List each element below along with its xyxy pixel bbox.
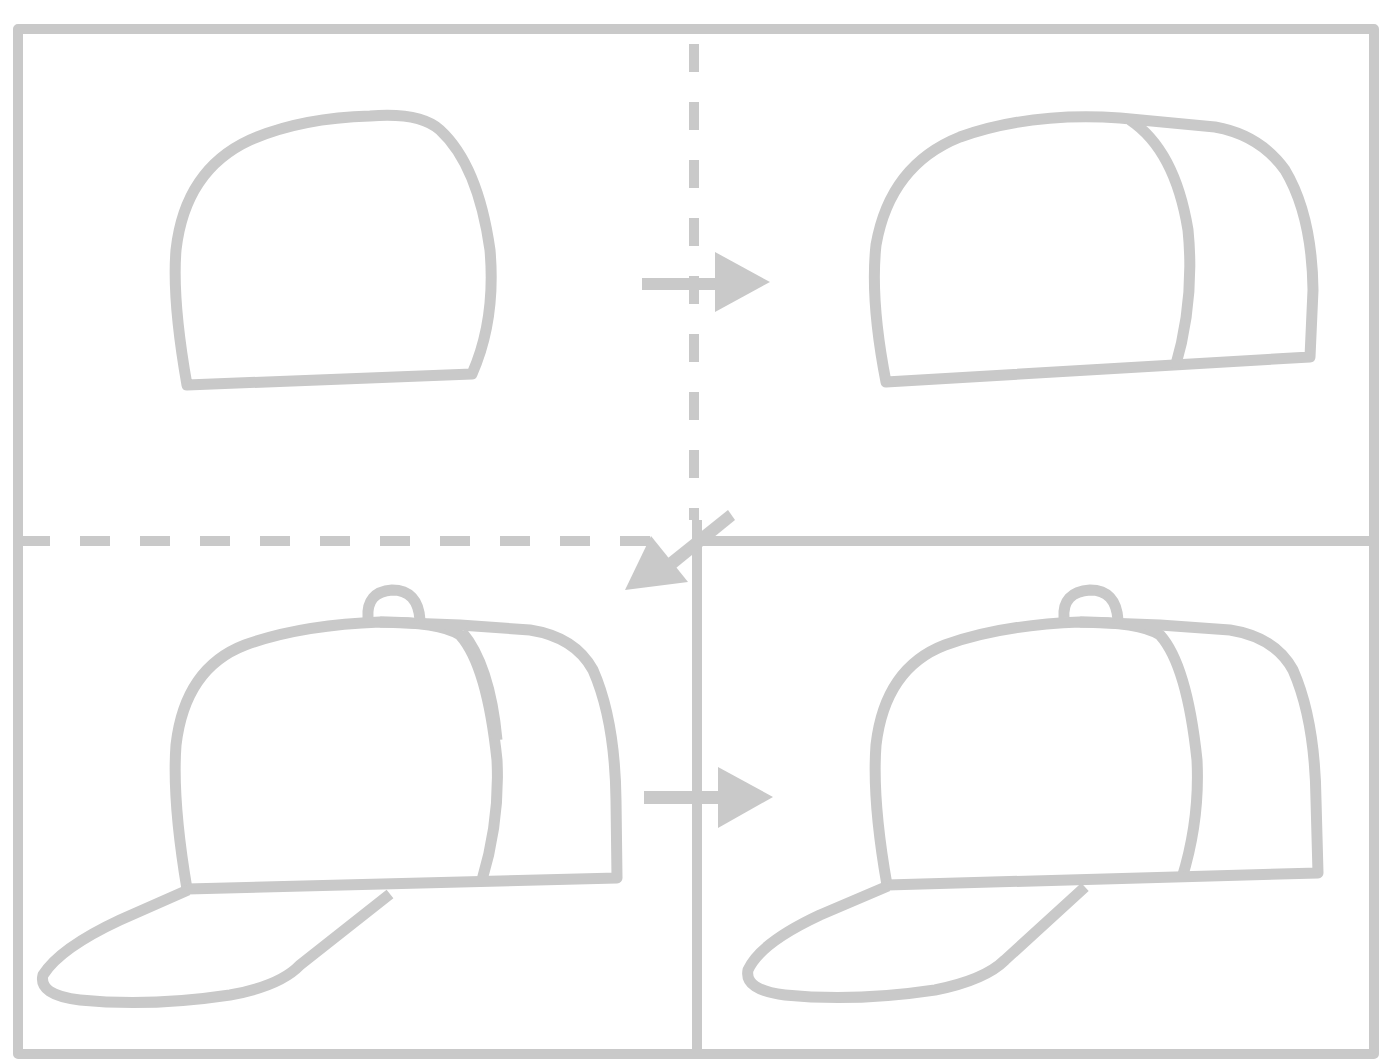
cap-drawing-diagram: [0, 0, 1385, 1061]
arrow-step-1-to-2: [642, 252, 770, 312]
cap-brim: [748, 886, 1085, 998]
step-2-cap-crown-with-panel: [874, 117, 1313, 382]
step-1-cap-crown: [175, 115, 491, 385]
step-3-cap-with-brim: [42, 590, 617, 1003]
arrow-step-2-to-3: [625, 510, 735, 590]
step-4-finished-cap: [748, 590, 1318, 998]
cap-brim: [42, 890, 390, 1003]
cap-button: [1064, 590, 1118, 620]
arrow-step-3-to-4: [644, 767, 773, 828]
cap-button: [368, 590, 420, 620]
